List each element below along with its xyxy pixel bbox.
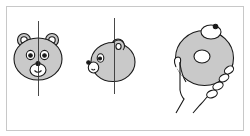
donut-hole — [194, 50, 210, 63]
side-pupil — [99, 57, 102, 60]
left-pupil — [29, 54, 33, 58]
bear-side-head — [91, 43, 135, 82]
right-pupil — [43, 54, 47, 58]
top-nose-icon — [213, 24, 217, 28]
figure-canvas — [0, 0, 250, 136]
bear-front-view — [14, 34, 62, 81]
side-ear-inner — [116, 44, 121, 50]
nose-icon — [36, 62, 40, 66]
side-nose-icon — [87, 61, 91, 65]
